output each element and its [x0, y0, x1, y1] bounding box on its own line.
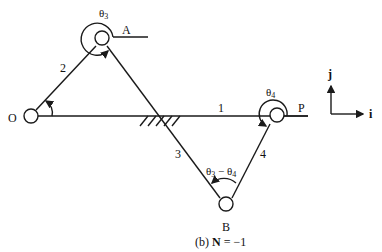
link-2 — [36, 46, 96, 110]
figure-caption: (b) N = −1 — [195, 235, 246, 249]
theta3-label: θ3 — [99, 7, 108, 21]
link-3 — [107, 46, 220, 198]
i-axis-label: i — [369, 107, 373, 121]
node-label-p: P — [298, 101, 305, 115]
theta-diff-arc-icon — [212, 178, 236, 183]
link-label-1: 1 — [218, 101, 224, 115]
linkage-diagram: O A B P 1 2 3 4 θ3 θ4 θ3 − θ4 j i (b) N … — [0, 0, 382, 252]
node-label-a: A — [122, 23, 131, 37]
link-label-3: 3 — [175, 147, 181, 161]
link-4 — [232, 124, 270, 198]
pin-a — [95, 31, 109, 45]
theta2-arc-icon — [46, 101, 52, 116]
theta4-label: θ4 — [266, 86, 275, 100]
theta-diff-label: θ3 − θ4 — [206, 165, 236, 179]
pin-o — [24, 109, 38, 123]
pin-b — [219, 197, 233, 211]
link-label-4: 4 — [260, 147, 266, 161]
j-axis-label: j — [327, 67, 332, 81]
node-label-o: O — [8, 111, 17, 125]
node-label-b: B — [222, 220, 230, 234]
link-label-2: 2 — [60, 61, 66, 75]
pin-p — [270, 108, 284, 122]
coordinate-axes: j i — [327, 67, 373, 121]
